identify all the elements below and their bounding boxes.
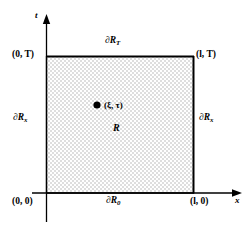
boundary-top-subscript: T [116,39,120,46]
corner-label-top-left: (0, T) [12,49,34,59]
boundary-left-subscript: x [24,116,27,123]
figure-canvas: t x (0, T) (l, T) (0, 0) (l, 0) ∂∂RRT ∂∂… [0,0,251,232]
boundary-label-left: ∂∂RRx [13,113,27,123]
corner-label-bottom-left: (0, 0) [12,196,33,206]
boundary-bottom-subscript: 0 [117,199,120,206]
region-label: R [113,122,120,133]
corner-label-top-right: (l, T) [196,49,216,59]
source-point-label: (ξ, τ) [104,100,123,110]
boundary-label-right: ∂∂RRx [199,113,213,123]
t-axis-arrowhead [43,14,50,24]
source-point-dot [93,101,100,108]
t-axis-label: t [35,10,38,20]
boundary-right-subscript: x [210,116,213,123]
x-axis-label: x [235,195,240,205]
region-fill [47,57,194,194]
boundary-label-bottom: ∂∂RR0 [106,196,120,206]
corner-label-bottom-right: (l, 0) [190,196,208,206]
boundary-label-top: ∂∂RRT [105,36,120,46]
